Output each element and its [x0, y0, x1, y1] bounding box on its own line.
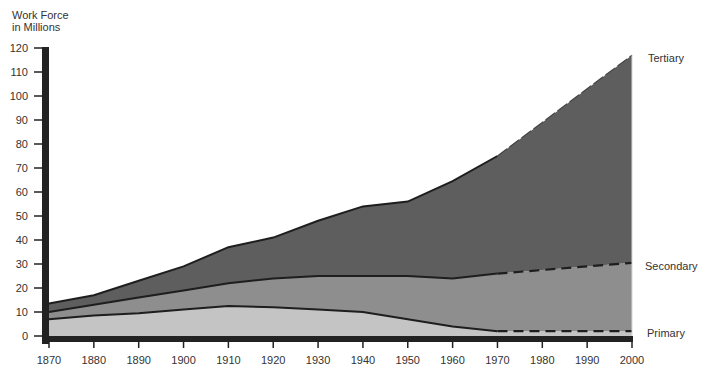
x-tick-label: 1990: [575, 354, 599, 366]
plot-areas: [49, 55, 632, 336]
x-tick-label: 1890: [126, 354, 150, 366]
y-tick-label: 20: [16, 282, 28, 294]
y-tick-label: 10: [16, 306, 28, 318]
y-tick-label: 70: [16, 162, 28, 174]
x-tick-label: 1930: [306, 354, 330, 366]
x-tick-label: 1960: [440, 354, 464, 366]
series-labels: Tertiary Secondary Primary: [645, 52, 698, 339]
y-tick-label: 60: [16, 186, 28, 198]
x-tick-label: 1870: [37, 354, 61, 366]
series-label-secondary: Secondary: [645, 260, 698, 272]
x-tick-label: 1880: [82, 354, 106, 366]
y-tick-label: 0: [22, 330, 28, 342]
series-label-primary: Primary: [647, 327, 685, 339]
x-tick-label: 2000: [620, 354, 644, 366]
y-tick-label: 90: [16, 114, 28, 126]
x-tick-label: 1900: [171, 354, 195, 366]
y-tick-label: 80: [16, 138, 28, 150]
series-label-tertiary: Tertiary: [648, 52, 685, 64]
y-tick-label: 30: [16, 258, 28, 270]
x-axis-line: [42, 336, 633, 342]
x-tick-label: 1980: [530, 354, 554, 366]
x-tick-label: 1920: [261, 354, 285, 366]
y-tick-label: 50: [16, 210, 28, 222]
x-tick-label: 1970: [485, 354, 509, 366]
stacked-area-chart: 0102030405060708090100110120187018801890…: [0, 0, 709, 380]
x-tick-label: 1940: [351, 354, 375, 366]
y-tick-label: 40: [16, 234, 28, 246]
y-tick-label: 120: [10, 42, 28, 54]
y-tick-label: 110: [10, 66, 28, 78]
x-tick-label: 1910: [216, 354, 240, 366]
y-tick-label: 100: [10, 90, 28, 102]
x-tick-label: 1950: [396, 354, 420, 366]
y-axis-line: [42, 47, 49, 344]
